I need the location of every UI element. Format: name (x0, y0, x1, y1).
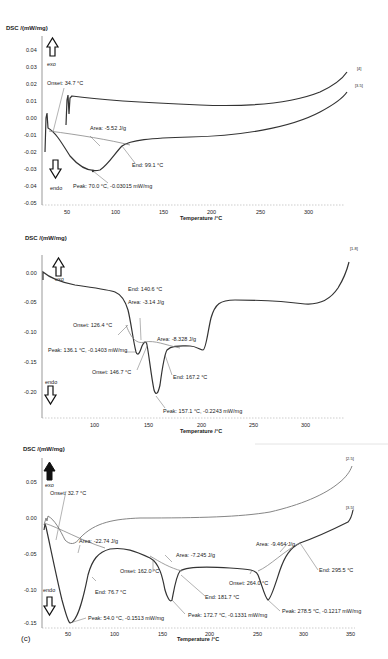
peak2-annotation: Peak: 172.7 °C, -0.1331 mW/mg (188, 612, 267, 618)
y-axis-title: DSC /(mW/mg) (23, 446, 65, 452)
x-tick: 250 (249, 422, 258, 428)
onset-annotation: Onset: 34.7 °C (47, 80, 83, 86)
x-tick: 100 (90, 422, 99, 428)
y-tick: 0.02 (26, 81, 37, 87)
exo-arrow-icon (47, 38, 58, 56)
y-tick: 0.01 (26, 98, 37, 104)
y-tick: -0.05 (24, 200, 37, 206)
endo-arrow-icon (45, 386, 56, 404)
series-label-bottom: [3.5] (355, 83, 363, 88)
y-tick: 0.04 (26, 47, 37, 53)
curve-bottom (45, 92, 347, 171)
onset3-annotation: Onset: 264.0 °C (229, 580, 268, 586)
baseline (44, 523, 300, 571)
y-tick: -0.15 (24, 620, 37, 626)
x-tick: 150 (159, 209, 168, 215)
end1-annotation: End: 76.7 °C (95, 589, 126, 595)
y-tick: 0.05 (26, 479, 37, 485)
y-tick: -0.03 (24, 166, 37, 172)
chart-3: DSC /(mW/mg) 0.05 0.00 -0.05 -0.10 -0.15… (21, 444, 388, 643)
y-tick: 0.00 (26, 515, 37, 521)
x-axis-title: Temperature /°C (177, 636, 219, 642)
chart-2: DSC /(mW/mg) 0.00 -0.05 -0.10 -0.15 -0.2… (24, 235, 358, 434)
area2-annotation: Area: -8.328 J/g (157, 336, 196, 342)
y-tick: -0.04 (24, 183, 37, 189)
x-axis-title: Temperature /°C (180, 215, 222, 221)
endo-arrow-icon (50, 160, 61, 178)
dsc-figure: DSC /(mW/mg) 0.04 0.03 0.02 0.01 0.00 -0… (0, 0, 388, 659)
area1-annotation: Area: -3.14 J/g (128, 299, 164, 305)
onset1-annotation: Onset: 32.7 °C (50, 490, 86, 496)
x-tick: 100 (111, 209, 120, 215)
y-ticks: 0.05 0.00 -0.05 -0.10 -0.15 (24, 479, 37, 626)
y-tick: -0.15 (24, 359, 37, 365)
x-tick: 250 (253, 631, 262, 637)
end2-annotation: End: 167.2 °C (173, 374, 207, 380)
peak3-annotation: Peak: 278.5 °C, -0.1217 mW/mg (282, 608, 361, 614)
peak-annotation: Peak: 70.0 °C, -0.03015 mW/mg (73, 183, 152, 189)
endo-label: endo (50, 185, 62, 191)
exo-arrow-icon (53, 258, 64, 276)
y-axis-title: DSC /(mW/mg) (25, 235, 67, 241)
y-axis-title: DSC /(mW/mg) (6, 25, 48, 31)
curve-top (66, 72, 347, 125)
onset2-annotation: Onset: 146.7 °C (92, 369, 131, 375)
y-tick: -0.05 (24, 551, 37, 557)
area2-annotation: Area: -7.245 J/g (176, 552, 215, 558)
area3-annotation: Area: -9.464 J/g (256, 541, 295, 547)
onset2-annotation: Onset: 162.0 °C (120, 568, 159, 574)
peak1-annotation: Peak: 136.1 °C, -0.1403 mW/mg (48, 347, 127, 353)
y-tick: -0.02 (24, 149, 37, 155)
end-annotation: End: 99.1 °C (132, 162, 163, 168)
x-tick: 50 (65, 631, 71, 637)
y-tick: -0.20 (24, 389, 37, 395)
x-tick: 50 (64, 209, 70, 215)
y-tick: 0.00 (26, 270, 37, 276)
y-tick: 0.03 (26, 64, 37, 70)
x-tick: 350 (346, 631, 355, 637)
x-tick: 150 (158, 631, 167, 637)
y-tick: -0.10 (24, 329, 37, 335)
peak1-annotation: Peak: 54.0 °C, -0.1513 mW/mg (88, 615, 164, 621)
series-label: [1.8] (350, 246, 358, 251)
exo-label: exo (47, 61, 56, 67)
x-axis-title: Temperature /°C (180, 428, 222, 434)
panel-label: (c) (21, 634, 31, 643)
curve-top (44, 466, 352, 544)
x-tick: 300 (301, 422, 310, 428)
x-tick: 250 (256, 209, 265, 215)
exo-arrow-icon (44, 462, 55, 480)
y-tick: 0.00 (26, 115, 37, 121)
x-tick: 300 (299, 631, 308, 637)
peak2-annotation: Peak: 157.1 °C, -0.2243 mW/mg (163, 408, 242, 414)
series-label-bottom: [3.5] (346, 505, 354, 510)
y-tick: -0.05 (24, 299, 37, 305)
y-ticks: 0.04 0.03 0.02 0.01 0.00 -0.01 -0.02 -0.… (24, 47, 37, 206)
y-tick: -0.01 (24, 132, 37, 138)
area1-annotation: Area: -22.74 J/g (79, 538, 118, 544)
y-tick: -0.10 (24, 587, 37, 593)
end3-annotation: End: 295.5 °C (319, 567, 353, 573)
x-tick: 300 (304, 209, 313, 215)
onset1-annotation: Onset: 126.4 °C (73, 322, 112, 328)
series-label-top: [4] (357, 66, 361, 71)
endo-label: endo (45, 379, 57, 385)
series-label-top: [2.5] (346, 456, 354, 461)
end2-annotation: End: 181.7 °C (205, 594, 239, 600)
end1-annotation: End: 140.6 °C (128, 286, 162, 292)
area-annotation: Area: -5.52 J/g (90, 125, 126, 131)
chart-1: DSC /(mW/mg) 0.04 0.03 0.02 0.01 0.00 -0… (6, 25, 363, 221)
endo-label: endo (43, 587, 55, 593)
exo-label: exo (45, 482, 54, 488)
x-tick: 150 (144, 422, 153, 428)
curve-bottom (44, 510, 353, 623)
x-tick: 100 (110, 631, 119, 637)
endo-arrow-icon (44, 597, 55, 615)
y-ticks: 0.00 -0.05 -0.10 -0.15 -0.20 (24, 270, 37, 395)
